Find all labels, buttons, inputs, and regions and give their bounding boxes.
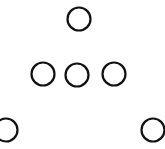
circles-group: [0, 8, 165, 142]
circle-bottom-left: [0, 119, 18, 142]
circle-middle-left: [32, 63, 55, 86]
circle-bottom-right: [142, 119, 165, 142]
circle-diagram: [0, 0, 165, 149]
circle-middle-center: [66, 64, 89, 87]
circle-middle-right: [103, 63, 126, 86]
circle-top: [68, 8, 91, 31]
